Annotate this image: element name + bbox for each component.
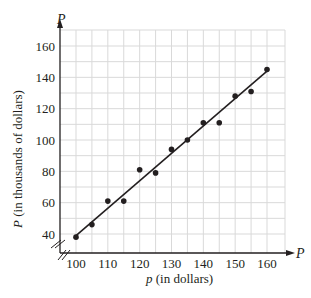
x-axis-break-mark <box>58 250 66 260</box>
data-point <box>137 167 143 173</box>
data-point <box>201 120 207 126</box>
data-point <box>121 198 127 204</box>
data-point <box>169 147 175 153</box>
y-axis-variable: P <box>56 12 66 27</box>
x-tick-label: 130 <box>162 256 182 271</box>
data-point <box>264 67 270 73</box>
data-point <box>248 89 254 95</box>
y-tick-label: 120 <box>36 101 56 116</box>
y-axis-label-text: (in thousands of dollars) <box>10 90 25 220</box>
y-tick-label: 140 <box>36 70 56 85</box>
x-tick-label: 150 <box>225 256 245 271</box>
data-point <box>185 137 191 143</box>
x-tick-label: 110 <box>98 256 117 271</box>
y-axis-label-var: P <box>10 220 25 229</box>
x-axis-label: p (in dollars) <box>145 271 213 286</box>
data-point <box>105 198 111 204</box>
scatter-chart: 100110120130140150160406080100120140160 … <box>0 0 311 298</box>
x-axis-variable: P <box>295 246 305 261</box>
y-tick-label: 80 <box>42 164 55 179</box>
y-tick-label: 160 <box>36 39 56 54</box>
x-tick-label: 160 <box>257 256 277 271</box>
data-point <box>153 170 159 176</box>
x-tick-label: 100 <box>66 256 86 271</box>
data-point <box>232 93 238 99</box>
data-point <box>89 222 95 228</box>
y-tick-label: 60 <box>42 195 55 210</box>
tick-labels: 100110120130140150160406080100120140160 <box>36 39 277 272</box>
data-point <box>216 120 222 126</box>
x-tick-label: 140 <box>194 256 214 271</box>
x-tick-label: 120 <box>130 256 150 271</box>
x-axis-label-text: (in dollars) <box>153 271 214 286</box>
x-axis-arrow-icon <box>286 250 295 256</box>
y-tick-label: 40 <box>42 227 55 242</box>
data-point <box>73 234 79 240</box>
y-tick-label: 100 <box>36 133 56 148</box>
y-axis-label: P (in thousands of dollars) <box>10 90 25 229</box>
